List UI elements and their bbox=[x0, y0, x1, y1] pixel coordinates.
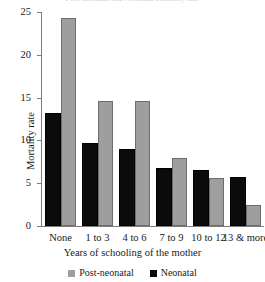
bar-neonatal bbox=[45, 113, 61, 226]
y-axis-tick-label: 0 bbox=[26, 221, 31, 232]
cropped-chart-title: Post-neonatal and Neonatal mortality rat… bbox=[62, 0, 202, 6]
x-axis-category-labels: None1 to 34 to 67 to 910 to 1213 & more bbox=[42, 231, 264, 245]
bar-neonatal bbox=[193, 170, 209, 226]
y-axis-tick: 20 bbox=[37, 55, 41, 56]
bar-neonatal bbox=[119, 149, 135, 226]
y-axis-tick-label: 5 bbox=[26, 178, 31, 189]
x-axis-category-label: 13 & more bbox=[221, 231, 265, 244]
bar-post-neonatal bbox=[61, 18, 77, 226]
bar-neonatal bbox=[230, 177, 246, 226]
y-axis-title: Mortality rate bbox=[25, 112, 36, 170]
chart-legend: Post-neonatalNeonatal bbox=[0, 267, 265, 279]
y-axis-tick-label: 15 bbox=[21, 92, 32, 103]
y-axis-tick: 10 bbox=[37, 140, 41, 141]
mortality-rate-bar-chart: Post-neonatal and Neonatal mortality rat… bbox=[0, 0, 265, 282]
x-axis-title: Years of schooling of the mother bbox=[0, 246, 265, 259]
bar-post-neonatal bbox=[135, 101, 151, 226]
bar-post-neonatal bbox=[209, 178, 225, 226]
y-axis-tick: 25 bbox=[37, 12, 41, 13]
legend-label: Neonatal bbox=[161, 267, 197, 279]
y-axis-tick-label: 20 bbox=[21, 50, 32, 61]
x-axis-line bbox=[41, 226, 264, 227]
bars-layer bbox=[42, 12, 264, 226]
legend-swatch-icon bbox=[68, 270, 75, 277]
y-axis-tick: 15 bbox=[37, 98, 41, 99]
y-axis-tick: 5 bbox=[37, 183, 41, 184]
plot-area: 2520151050 bbox=[41, 12, 264, 226]
bar-post-neonatal bbox=[98, 101, 114, 226]
legend-label: Post-neonatal bbox=[79, 267, 133, 279]
bar-post-neonatal bbox=[246, 205, 262, 226]
bar-post-neonatal bbox=[172, 158, 188, 226]
legend-item: Post-neonatal bbox=[68, 267, 133, 279]
bar-neonatal bbox=[156, 168, 172, 226]
legend-item: Neonatal bbox=[150, 267, 197, 279]
bar-neonatal bbox=[82, 143, 98, 226]
y-axis-tick: 0 bbox=[37, 226, 41, 227]
legend-swatch-icon bbox=[150, 270, 157, 277]
y-axis-tick-label: 25 bbox=[21, 7, 32, 18]
cropped-chart-title-text: Post-neonatal and Neonatal mortality rat… bbox=[62, 0, 202, 3]
